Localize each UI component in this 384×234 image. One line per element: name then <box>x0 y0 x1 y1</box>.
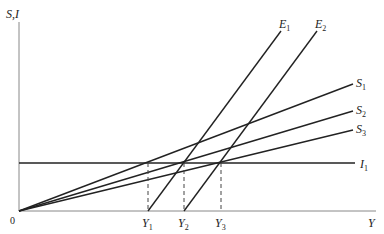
diagram-canvas <box>0 0 384 234</box>
origin-label: 0 <box>10 215 15 226</box>
label-e2: E2 <box>315 18 326 33</box>
y-axis-label: S,I <box>6 8 19 20</box>
label-s3: S3 <box>356 123 366 138</box>
label-s2: S2 <box>356 104 366 119</box>
tick-y2: Y2 <box>178 217 189 232</box>
saving-line-s1 <box>19 84 353 211</box>
tick-y1: Y1 <box>142 217 153 232</box>
saving-line-s2 <box>19 111 353 211</box>
label-e1: E1 <box>279 18 290 33</box>
line-e2 <box>184 31 317 211</box>
label-i1: I1 <box>360 158 368 173</box>
saving-line-s3 <box>19 130 353 211</box>
tick-y3: Y3 <box>215 217 226 232</box>
x-axis-label: Y <box>368 217 375 229</box>
label-s1: S1 <box>356 77 366 92</box>
line-e1 <box>148 31 281 211</box>
